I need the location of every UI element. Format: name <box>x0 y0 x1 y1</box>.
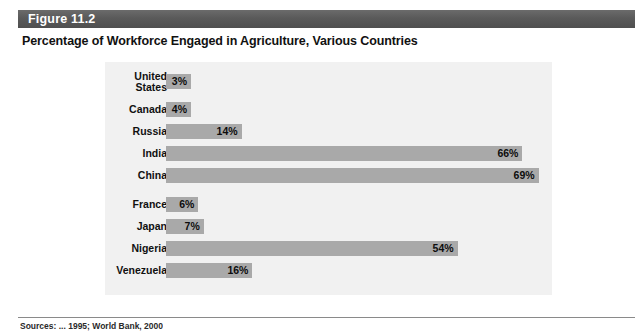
bar-value-label: 14% <box>217 125 238 138</box>
bar-category-label: India <box>47 148 167 159</box>
bar: 7% <box>166 219 204 234</box>
bar-value-label: 7% <box>185 220 200 233</box>
bar-value-label: 69% <box>514 169 535 182</box>
chart-plot-area: United States3%Canada4%Russia14%India66%… <box>105 62 552 295</box>
chart-row: Nigeria54% <box>105 241 552 256</box>
bar-category-label: Venezuela <box>47 265 167 276</box>
bar-category-label: Canada <box>47 104 167 115</box>
bar-category-label: Russia <box>47 126 167 137</box>
bar-value-label: 3% <box>172 75 187 88</box>
bar-category-label: Japan <box>47 221 167 232</box>
bar-value-label: 6% <box>179 198 194 211</box>
bar-category-label: China <box>47 170 167 181</box>
bar-value-label: 54% <box>433 242 454 255</box>
bar: 54% <box>166 241 458 256</box>
bar-value-label: 4% <box>172 103 187 116</box>
chart-row: India66% <box>105 146 552 161</box>
figure-header-bar: Figure 11.2 <box>18 10 635 28</box>
bar: 6% <box>166 197 198 212</box>
bar-category-label: United States <box>47 71 167 92</box>
bar: 3% <box>166 74 191 89</box>
figure-number-label: Figure 11.2 <box>28 11 96 28</box>
chart-row: Venezuela16% <box>105 263 552 278</box>
bar-category-label: Nigeria <box>47 243 167 254</box>
chart-row: United States3% <box>105 74 552 89</box>
footer-divider <box>18 317 635 318</box>
bar: 66% <box>166 146 522 161</box>
source-note: Sources: ... 1995; World Bank, 2000 <box>20 321 163 331</box>
bar-value-label: 16% <box>227 264 248 277</box>
figure-title: Percentage of Workforce Engaged in Agric… <box>22 34 418 48</box>
chart-row: Russia14% <box>105 124 552 139</box>
bar: 4% <box>166 102 191 117</box>
bar: 16% <box>166 263 252 278</box>
bar: 69% <box>166 168 539 183</box>
bar-category-label: France <box>47 199 167 210</box>
chart-row: China69% <box>105 168 552 183</box>
bar: 14% <box>166 124 242 139</box>
chart-row: France6% <box>105 197 552 212</box>
chart-row: Canada4% <box>105 102 552 117</box>
bar-value-label: 66% <box>497 147 518 160</box>
chart-row: Japan7% <box>105 219 552 234</box>
